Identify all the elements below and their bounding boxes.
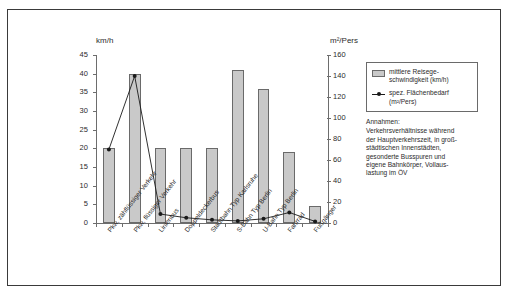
assumptions-line-3: städtischen Innenstädten,: [366, 144, 484, 152]
assumptions-line-6: lastung im ÖV: [366, 169, 484, 177]
line-point: [262, 217, 266, 221]
line-point: [107, 148, 111, 152]
right-tick-label: 20: [333, 197, 359, 206]
legend-label-line-line2: (m²/Pers): [389, 98, 416, 105]
left-tick-label: 10: [62, 181, 88, 190]
right-axis-title: m²/Pers: [330, 36, 358, 45]
right-tick-label: 0: [333, 218, 359, 227]
right-tick-label: 100: [333, 113, 359, 122]
legend-label-bar-line1: mittlere Reisege-: [389, 68, 439, 75]
legend-label-bar: mittlere Reisege- schwindigkeit (km/h): [389, 68, 449, 84]
legend-label-line: spez. Flächenbedarf (m²/Pers): [389, 89, 449, 105]
bar-swatch-icon: [372, 70, 385, 77]
left-tick-label: 35: [62, 87, 88, 96]
left-tick-label: 25: [62, 125, 88, 134]
right-tick-label: 80: [333, 134, 359, 143]
left-tick-label: 0: [62, 218, 88, 227]
assumptions-line-5: eigene Bahnkörper, Vollaus-: [366, 161, 484, 169]
assumptions-line-2: der Hauptverkehrszeit, in groß-: [366, 136, 484, 144]
left-tick-label: 20: [62, 143, 88, 152]
assumptions-note: Annahmen: Verkehrsverhältnisse während d…: [366, 118, 484, 178]
left-tick-label: 5: [62, 199, 88, 208]
line-point: [184, 216, 188, 220]
line-point: [133, 74, 137, 78]
assumptions-heading: Annahmen:: [366, 118, 484, 126]
assumptions-line-1: Verkehrsverhältnisse während: [366, 127, 484, 135]
line-point: [158, 212, 162, 216]
left-axis-title: km/h: [96, 36, 113, 45]
legend-label-line-line1: spez. Flächenbedarf: [389, 89, 449, 96]
left-tick-label: 45: [62, 50, 88, 59]
left-tick-label: 15: [62, 162, 88, 171]
chart-frame: km/h m²/Pers 051015202530354045 02040608…: [7, 9, 501, 286]
right-tick-label: 120: [333, 92, 359, 101]
assumptions-line-4: gesonderte Busspuren und: [366, 153, 484, 161]
right-tick-label: 60: [333, 155, 359, 164]
line-point: [287, 211, 291, 215]
legend-item-line: spez. Flächenbedarf (m²/Pers): [372, 89, 473, 105]
legend-item-bar: mittlere Reisege- schwindigkeit (km/h): [372, 68, 473, 84]
right-tick-label: 40: [333, 176, 359, 185]
legend-label-bar-line2: schwindigkeit (km/h): [389, 76, 449, 83]
left-tick-label: 40: [62, 69, 88, 78]
chart-legend: mittlere Reisege- schwindigkeit (km/h) s…: [366, 62, 478, 112]
left-tick-label: 30: [62, 106, 88, 115]
line-marker-icon: [372, 91, 385, 98]
right-tick-label: 140: [333, 71, 359, 80]
right-tick-label: 160: [333, 50, 359, 59]
